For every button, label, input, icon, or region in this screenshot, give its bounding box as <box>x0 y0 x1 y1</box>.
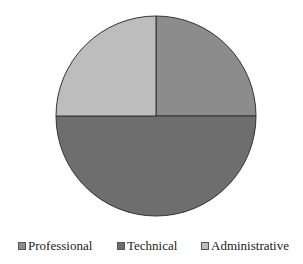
legend-swatch-professional <box>18 242 26 250</box>
legend-label-administrative: Administrative <box>211 236 289 256</box>
pie-slice-technical <box>56 116 256 216</box>
legend-label-technical: Technical <box>127 236 177 256</box>
legend: Professional Technical Administrative <box>0 236 303 256</box>
legend-label-professional: Professional <box>28 236 92 256</box>
legend-swatch-administrative <box>201 242 209 250</box>
pie-chart <box>0 0 303 232</box>
legend-item-administrative: Administrative <box>201 236 289 256</box>
pie-slice-professional <box>156 16 256 116</box>
legend-item-technical: Technical <box>117 236 177 256</box>
legend-swatch-technical <box>117 242 125 250</box>
legend-item-professional: Professional <box>18 236 92 256</box>
pie-slices <box>56 16 256 216</box>
pie-slice-administrative <box>56 16 156 116</box>
